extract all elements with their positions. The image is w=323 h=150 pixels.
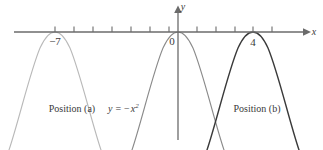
x-axis-label: x (311, 26, 317, 37)
tick-label-four: 4 (250, 36, 256, 48)
caption-position-a: Position (a) (49, 103, 95, 115)
equation-exponent: 2 (135, 102, 139, 110)
caption-position-b: Position (b) (234, 103, 281, 115)
figure-canvas: x y −7 0 4 Position (a) y=−x2 Position (… (0, 0, 323, 150)
tick-label-zero: 0 (169, 35, 175, 47)
curve-position-b (207, 32, 299, 150)
x-axis-arrowhead (303, 28, 311, 36)
y-axis-label: y (180, 1, 186, 12)
x-axis-ticks (55, 27, 272, 33)
equation-text: y=−x2 (107, 102, 139, 114)
equation-minus: − (124, 103, 130, 114)
tick-label-minus-seven: −7 (49, 35, 61, 47)
equation-lhs: y (107, 103, 113, 114)
equation-equals: = (115, 103, 121, 114)
parabola-translation-figure: x y −7 0 4 Position (a) y=−x2 Position (… (0, 0, 323, 150)
curve-position-a (9, 32, 101, 150)
equation-label: y=−x2 (107, 102, 139, 114)
